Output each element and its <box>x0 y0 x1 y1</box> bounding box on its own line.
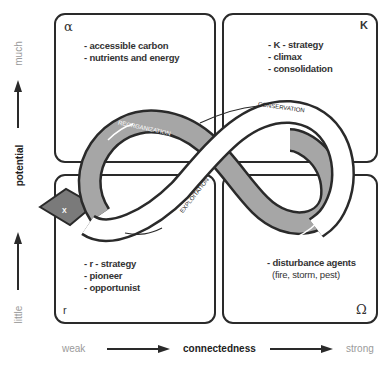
list-item: - consolidation <box>268 63 333 75</box>
arrow-up-icon <box>14 80 22 92</box>
list-item: - opportunist <box>84 282 140 294</box>
list-item: (fire, storm, pest) <box>267 269 356 281</box>
arrow-right-icon <box>321 345 333 353</box>
list-item: - nutrients and energy <box>84 52 179 64</box>
quadrant-alpha-list: - accessible carbon - nutrients and ener… <box>84 40 179 64</box>
y-axis-top-label: much <box>13 40 24 68</box>
x-axis-left-label: weak <box>62 343 85 354</box>
list-item: - r - strategy <box>84 258 140 270</box>
x-axis-title: connectedness <box>183 343 256 354</box>
release-label: RELEASE <box>254 230 282 239</box>
arrow-right-icon <box>158 345 170 353</box>
alpha-symbol: α <box>64 19 73 34</box>
quadrant-k-list: - K - strategy - climax - consolidation <box>268 39 333 75</box>
arrow-up-icon <box>14 232 22 244</box>
list-item: - climax <box>268 51 333 63</box>
quadrant-r-list: - r - strategy - pioneer - opportunist <box>84 258 140 294</box>
list-item: - disturbance agents <box>267 257 356 269</box>
list-item: - accessible carbon <box>84 40 179 52</box>
exit-x-label: X <box>62 207 67 214</box>
r-symbol: r <box>63 304 67 316</box>
omega-symbol: Ω <box>356 302 367 317</box>
list-item: - pioneer <box>84 270 140 282</box>
quadrant-omega-list: - disturbance agents (fire, storm, pest) <box>267 257 356 281</box>
x-axis-right-label: strong <box>346 343 374 354</box>
y-axis-title: potential <box>14 141 25 191</box>
list-item: - K - strategy <box>268 39 333 51</box>
y-axis-bottom-label: little <box>13 301 24 329</box>
k-symbol: K <box>360 19 368 31</box>
